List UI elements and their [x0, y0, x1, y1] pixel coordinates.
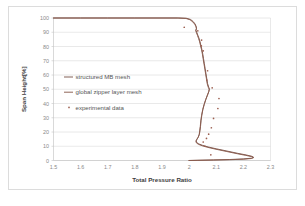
x-tick-label: 1.9: [158, 164, 166, 170]
data-point: [202, 141, 204, 143]
legend-label: global zipper layer mesh: [76, 88, 142, 95]
y-tick-label: 0: [46, 158, 49, 164]
data-point: [211, 127, 213, 129]
y-tick-label: 70: [43, 58, 49, 64]
y-tick-label: 80: [43, 44, 49, 50]
y-tick-label: 10: [43, 143, 49, 149]
data-point: [208, 133, 210, 135]
y-tick-label: 30: [43, 115, 49, 121]
legend-label: experimental data: [76, 104, 125, 111]
chart-canvas: 1.51.61.71.81.922.12.22.3 01020304050607…: [0, 0, 305, 206]
y-tick-label: 100: [40, 15, 49, 21]
x-tick-label: 2.3: [267, 164, 275, 170]
y-axis-title: Span Height[%]: [20, 66, 27, 112]
data-point: [201, 39, 203, 41]
y-tick-label: 90: [43, 29, 49, 35]
data-point: [206, 138, 208, 140]
legend-dot-swatch: [68, 107, 70, 109]
x-tick-label: 2.2: [240, 164, 248, 170]
x-tick-label: 2: [188, 164, 191, 170]
data-point: [210, 154, 212, 156]
data-point: [217, 108, 219, 110]
chart-figure: 1.51.61.71.81.922.12.22.3 01020304050607…: [0, 0, 305, 206]
x-tick-label: 1.8: [131, 164, 139, 170]
y-tick-label: 40: [43, 101, 49, 107]
y-tick-labels: 0102030405060708090100: [40, 15, 49, 164]
legend: structured MB meshglobal zipper layer me…: [64, 73, 142, 110]
legend-item: experimental data: [68, 104, 124, 111]
legend-label: structured MB mesh: [76, 73, 131, 80]
y-tick-label: 60: [43, 72, 49, 78]
data-point: [204, 145, 206, 147]
y-tick-label: 50: [43, 86, 49, 92]
data-point: [206, 79, 208, 81]
data-point: [200, 45, 202, 47]
data-point: [211, 87, 213, 89]
scatter-series: [183, 26, 219, 155]
data-point: [213, 118, 215, 120]
x-tick-label: 1.5: [50, 164, 58, 170]
data-point: [218, 98, 220, 100]
x-tick-labels: 1.51.61.71.81.922.12.22.3: [50, 164, 275, 170]
x-axis-title: Total Pressure Ratio: [132, 176, 192, 183]
data-point: [207, 70, 209, 72]
data-point: [183, 26, 185, 28]
legend-item: structured MB mesh: [64, 73, 130, 80]
legend-item: global zipper layer mesh: [64, 88, 142, 95]
y-tick-label: 20: [43, 129, 49, 135]
x-tick-label: 1.7: [104, 164, 112, 170]
x-tick-label: 2.1: [213, 164, 221, 170]
data-point: [197, 30, 199, 32]
x-tick-label: 1.6: [77, 164, 85, 170]
data-point: [202, 50, 204, 52]
